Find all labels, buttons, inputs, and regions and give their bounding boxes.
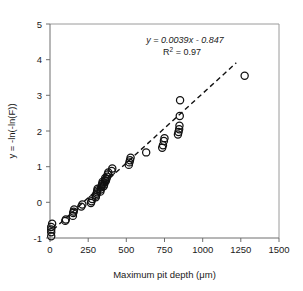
chart-figure: 5 4 3 2 1 0 -1 0 250 500 750 1000 1250 1… [0,0,303,291]
y-tick-label: 1 [37,161,42,172]
data-points [48,72,249,240]
trend-line-path [53,63,236,230]
x-axis-title: Maximum pit depth (μm) [113,269,216,280]
data-point-marker [143,149,150,156]
regression-equation-label: y = 0.0039x - 0.847 [145,35,224,45]
y-tick-label: -1 [34,233,42,244]
x-axis-tick-labels: 0 250 500 750 1000 1250 1500 [47,244,289,255]
data-point-marker [176,97,183,104]
x-tick-label: 250 [80,244,96,255]
y-axis-tick-labels: 5 4 3 2 1 0 -1 [34,19,42,244]
y-axis-title: y = -ln(-ln(F)) [6,103,17,158]
y-tick-label: 0 [37,197,42,208]
x-tick-label: 1500 [268,244,289,255]
data-point-marker [241,72,248,79]
y-tick-label: 5 [37,19,42,30]
x-tick-label: 750 [157,244,173,255]
x-tick-label: 0 [47,244,52,255]
trend-line [53,63,236,230]
svg-text:R2 = 0.97: R2 = 0.97 [163,46,201,58]
x-axis-ticks [50,238,279,242]
y-axis-ticks [46,24,50,238]
y-tick-label: 3 [37,90,42,101]
y-tick-label: 2 [37,126,42,137]
r-squared-value: = 0.97 [176,47,201,57]
r-squared-label: R2 = 0.97 [163,46,201,58]
y-tick-label: 4 [37,54,42,65]
x-tick-label: 1250 [230,244,251,255]
x-tick-label: 1000 [192,244,213,255]
scatter-plot-svg: 5 4 3 2 1 0 -1 0 250 500 750 1000 1250 1… [0,0,303,291]
x-tick-label: 500 [118,244,134,255]
